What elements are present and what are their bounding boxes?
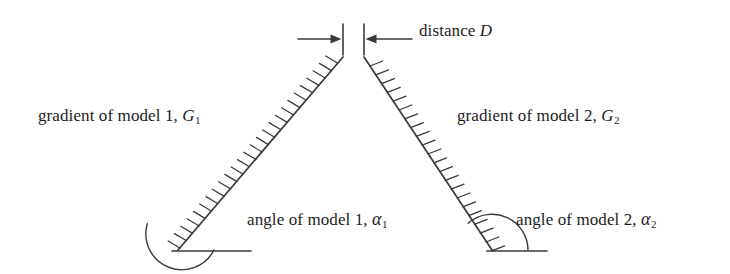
gradient-model-2-symbol: G bbox=[601, 106, 613, 125]
angle-model-1-label: angle of model 1, α1 bbox=[247, 209, 388, 230]
angle-model-1-subscript: 1 bbox=[382, 218, 388, 230]
gradient-model-1-label: gradient of model 1, G1 bbox=[38, 106, 201, 126]
gradient-model-2-label: gradient of model 2, G2 bbox=[457, 106, 620, 126]
angle-model-1-symbol: α bbox=[372, 209, 382, 229]
distance-arrow-left-head bbox=[331, 35, 342, 44]
distance-label-prefix: distance bbox=[419, 21, 476, 40]
diagram-canvas bbox=[0, 0, 730, 274]
angle-model-2-symbol: α bbox=[641, 209, 651, 229]
angle-model-1-prefix: angle of model 1, bbox=[247, 210, 368, 229]
gradient-model-2-prefix: gradient of model 2, bbox=[457, 106, 597, 125]
gradient-model-1-symbol: G bbox=[182, 106, 194, 125]
gradient-angle-diagram: distance D gradient of model 1, G1 gradi… bbox=[0, 0, 730, 274]
gradient-model-1-subscript: 1 bbox=[195, 114, 201, 126]
angle-model-2-subscript: 2 bbox=[651, 218, 657, 230]
model-2-hatching bbox=[370, 61, 505, 251]
gradient-model-1-prefix: gradient of model 1, bbox=[38, 106, 178, 125]
distance-label: distance D bbox=[419, 21, 492, 41]
angle-model-2-label: angle of model 2, α2 bbox=[516, 209, 657, 230]
gradient-model-2-subscript: 2 bbox=[614, 114, 620, 126]
angle-model-2-prefix: angle of model 2, bbox=[516, 210, 637, 229]
distance-label-symbol: D bbox=[480, 21, 492, 40]
distance-arrow-right-head bbox=[366, 35, 377, 44]
